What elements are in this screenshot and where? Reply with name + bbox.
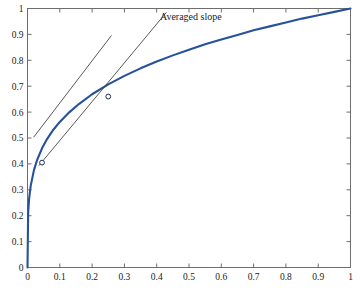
y-tick-label: 0.7	[12, 82, 24, 92]
chart-annotations-group: Averaged slope	[160, 11, 222, 22]
x-tick-label: 0.1	[54, 272, 66, 282]
y-tick-label: 0	[19, 263, 24, 273]
x-tick-label: 0.2	[86, 272, 98, 282]
marker-lower-point	[40, 160, 45, 165]
x-tick-label: 0.5	[183, 272, 195, 282]
chart-background	[0, 0, 364, 296]
x-tick-label: 0	[25, 272, 30, 282]
y-tick-label: 0.2	[12, 211, 24, 221]
x-tick-label: 0.7	[248, 272, 260, 282]
x-tick-label: 0.6	[215, 272, 227, 282]
y-tick-label: 1	[19, 4, 24, 14]
x-tick-label: 0.4	[151, 272, 163, 282]
y-tick-label: 0.3	[12, 185, 24, 195]
x-tick-label: 0.9	[312, 272, 324, 282]
chart-screenshot: 00.10.20.30.40.50.60.70.80.91 00.10.20.3…	[0, 0, 364, 296]
averaged-slope-label: Averaged slope	[160, 11, 222, 22]
x-tick-label: 0.8	[280, 272, 292, 282]
x-tick-label: 0.3	[118, 272, 130, 282]
y-tick-label: 0.9	[12, 30, 24, 40]
marker-upper-point	[106, 94, 111, 99]
plot-area: 00.10.20.30.40.50.60.70.80.91 00.10.20.3…	[0, 0, 364, 296]
y-tick-label: 0.8	[12, 56, 24, 66]
y-tick-label: 0.4	[12, 159, 24, 169]
y-tick-label: 0.5	[12, 133, 24, 143]
y-tick-label: 0.1	[12, 237, 24, 247]
x-tick-label: 1	[348, 272, 353, 282]
y-tick-label: 0.6	[12, 108, 24, 118]
